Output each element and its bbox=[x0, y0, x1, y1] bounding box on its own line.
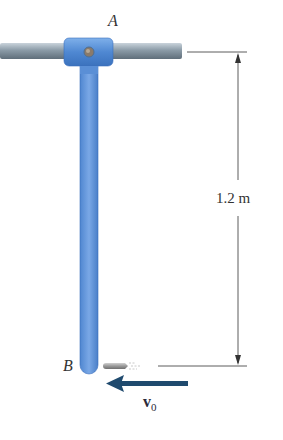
projectile bbox=[103, 363, 140, 369]
velocity-label: v0 bbox=[143, 393, 157, 413]
dimension-line bbox=[235, 53, 241, 365]
diagram-canvas bbox=[0, 0, 283, 440]
velocity-symbol: v bbox=[143, 393, 151, 410]
arrowhead-down-icon bbox=[235, 355, 241, 365]
dimension-label: 1.2 m bbox=[216, 190, 250, 207]
pendulum-rod bbox=[80, 58, 98, 374]
arrowhead-up-icon bbox=[235, 53, 241, 63]
point-b-label: B bbox=[63, 357, 73, 375]
pin-icon bbox=[84, 47, 94, 57]
point-a-label: A bbox=[108, 12, 118, 30]
velocity-arrow-icon bbox=[106, 375, 188, 392]
velocity-subscript: 0 bbox=[151, 401, 157, 413]
